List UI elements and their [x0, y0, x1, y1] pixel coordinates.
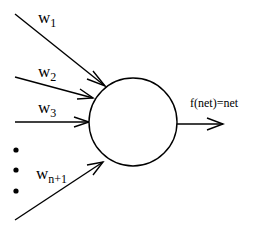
label-w2: w2	[38, 62, 56, 85]
neuron-circle	[89, 78, 177, 166]
output-arrow	[177, 118, 223, 130]
label-w1: w1	[38, 8, 56, 31]
input-arrow-w1	[15, 14, 105, 86]
neuron-diagram: w1 w2 w3 wn+1 f(net)=net	[0, 0, 254, 232]
label-wn1: wn+1	[36, 164, 67, 187]
ellipsis-dots	[13, 147, 18, 193]
output-label: f(net)=net	[190, 96, 238, 111]
label-w3: w3	[38, 98, 56, 121]
